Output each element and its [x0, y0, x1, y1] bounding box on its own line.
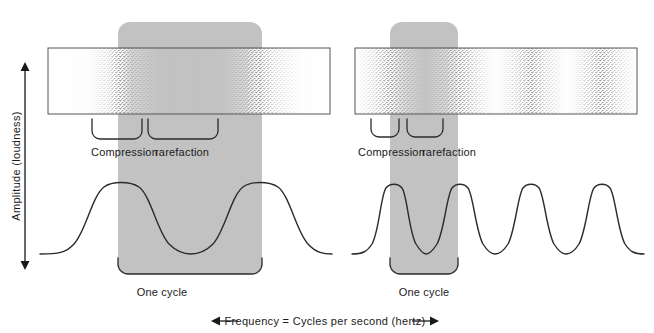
- one-cycle-label-right: One cycle: [399, 286, 450, 298]
- density-band-right: [355, 48, 637, 114]
- density-band-left: [48, 48, 330, 114]
- compression-label-right: Compression: [358, 146, 425, 158]
- diagram-canvas: Compression rarefaction Compression rare…: [0, 0, 654, 333]
- x-axis-label: Frequency = Cycles per second (hertz): [225, 315, 426, 327]
- sound-wave-diagram: Compression rarefaction Compression rare…: [0, 0, 654, 333]
- rarefaction-label-right: rarefaction: [422, 146, 476, 158]
- y-axis-label: Amplitude (loudness): [10, 111, 22, 220]
- arrow-down-icon: [21, 261, 30, 270]
- compression-label-left: Compression: [91, 146, 158, 158]
- arrow-left-icon: [211, 317, 220, 326]
- one-cycle-label-left: One cycle: [137, 286, 188, 298]
- arrow-up-icon: [21, 62, 30, 71]
- arrow-right-icon: [430, 317, 439, 326]
- rarefaction-label-left: rarefaction: [155, 146, 209, 158]
